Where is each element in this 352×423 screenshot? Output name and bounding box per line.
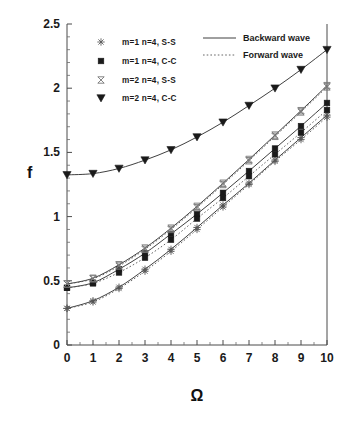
square-marker-icon bbox=[220, 195, 226, 201]
x-tick-label: 7 bbox=[246, 351, 253, 365]
legend-marker-label: m=1 n=4, C-C bbox=[122, 57, 177, 66]
star-marker-icon bbox=[271, 158, 278, 165]
x-tick-label: 5 bbox=[194, 351, 201, 365]
square-marker-icon bbox=[142, 255, 148, 261]
star-marker-icon bbox=[245, 181, 252, 188]
x-tick-label: 1 bbox=[90, 351, 97, 365]
star-marker-icon bbox=[141, 267, 148, 274]
star-marker-icon bbox=[89, 298, 96, 305]
y-tick-label: 1 bbox=[53, 210, 60, 224]
square-marker-icon bbox=[272, 152, 278, 158]
square-marker-icon bbox=[116, 270, 122, 276]
square-marker-icon bbox=[98, 58, 104, 64]
y-axis-title: f bbox=[27, 164, 33, 181]
square-marker-icon bbox=[324, 107, 330, 113]
x-tick-label: 10 bbox=[320, 351, 334, 365]
campbell-diagram-svg: 00.511.522.5 012345678910 f Ω m=1 n=4, S… bbox=[0, 0, 352, 423]
square-marker-icon bbox=[220, 190, 226, 196]
star-marker-icon bbox=[193, 226, 200, 233]
star-marker-icon bbox=[63, 305, 70, 312]
legend-marker-label: m=2 n=4, S-S bbox=[122, 76, 176, 85]
y-tick-label: 0.5 bbox=[43, 274, 60, 288]
star-marker-icon bbox=[219, 203, 226, 210]
y-tick-label: 2.5 bbox=[43, 17, 60, 31]
square-marker-icon bbox=[246, 168, 252, 174]
x-tick-label: 8 bbox=[272, 351, 279, 365]
legend-line-label: Forward wave bbox=[243, 50, 303, 60]
y-tick-label: 1.5 bbox=[43, 145, 60, 159]
square-marker-icon bbox=[272, 146, 278, 152]
square-marker-icon bbox=[246, 173, 252, 179]
x-tick-label: 6 bbox=[220, 351, 227, 365]
x-tick-label: 0 bbox=[64, 351, 71, 365]
legend-line-label: Backward wave bbox=[243, 33, 310, 43]
x-tick-label: 3 bbox=[142, 351, 149, 365]
x-tick-label: 9 bbox=[298, 351, 305, 365]
x-tick-label: 2 bbox=[116, 351, 123, 365]
square-marker-icon bbox=[298, 123, 304, 129]
star-marker-icon bbox=[115, 285, 122, 292]
x-axis-title: Ω bbox=[191, 387, 204, 404]
square-marker-icon bbox=[298, 130, 304, 136]
star-marker-icon bbox=[297, 136, 304, 143]
chart-figure: 00.511.522.5 012345678910 f Ω m=1 n=4, S… bbox=[0, 0, 352, 423]
y-tick-label: 0 bbox=[53, 338, 60, 352]
star-marker-icon bbox=[167, 248, 174, 255]
legend-marker-label: m=1 n=4, S-S bbox=[122, 38, 176, 47]
star-marker-icon bbox=[323, 113, 330, 120]
x-tick-label: 4 bbox=[168, 351, 175, 365]
legend-marker-label: m=2 n=4, C-C bbox=[122, 94, 177, 103]
square-marker-icon bbox=[194, 216, 200, 222]
square-marker-icon bbox=[324, 100, 330, 106]
y-tick-label: 2 bbox=[53, 81, 60, 95]
star-marker-icon bbox=[97, 38, 104, 45]
square-marker-icon bbox=[168, 237, 174, 243]
